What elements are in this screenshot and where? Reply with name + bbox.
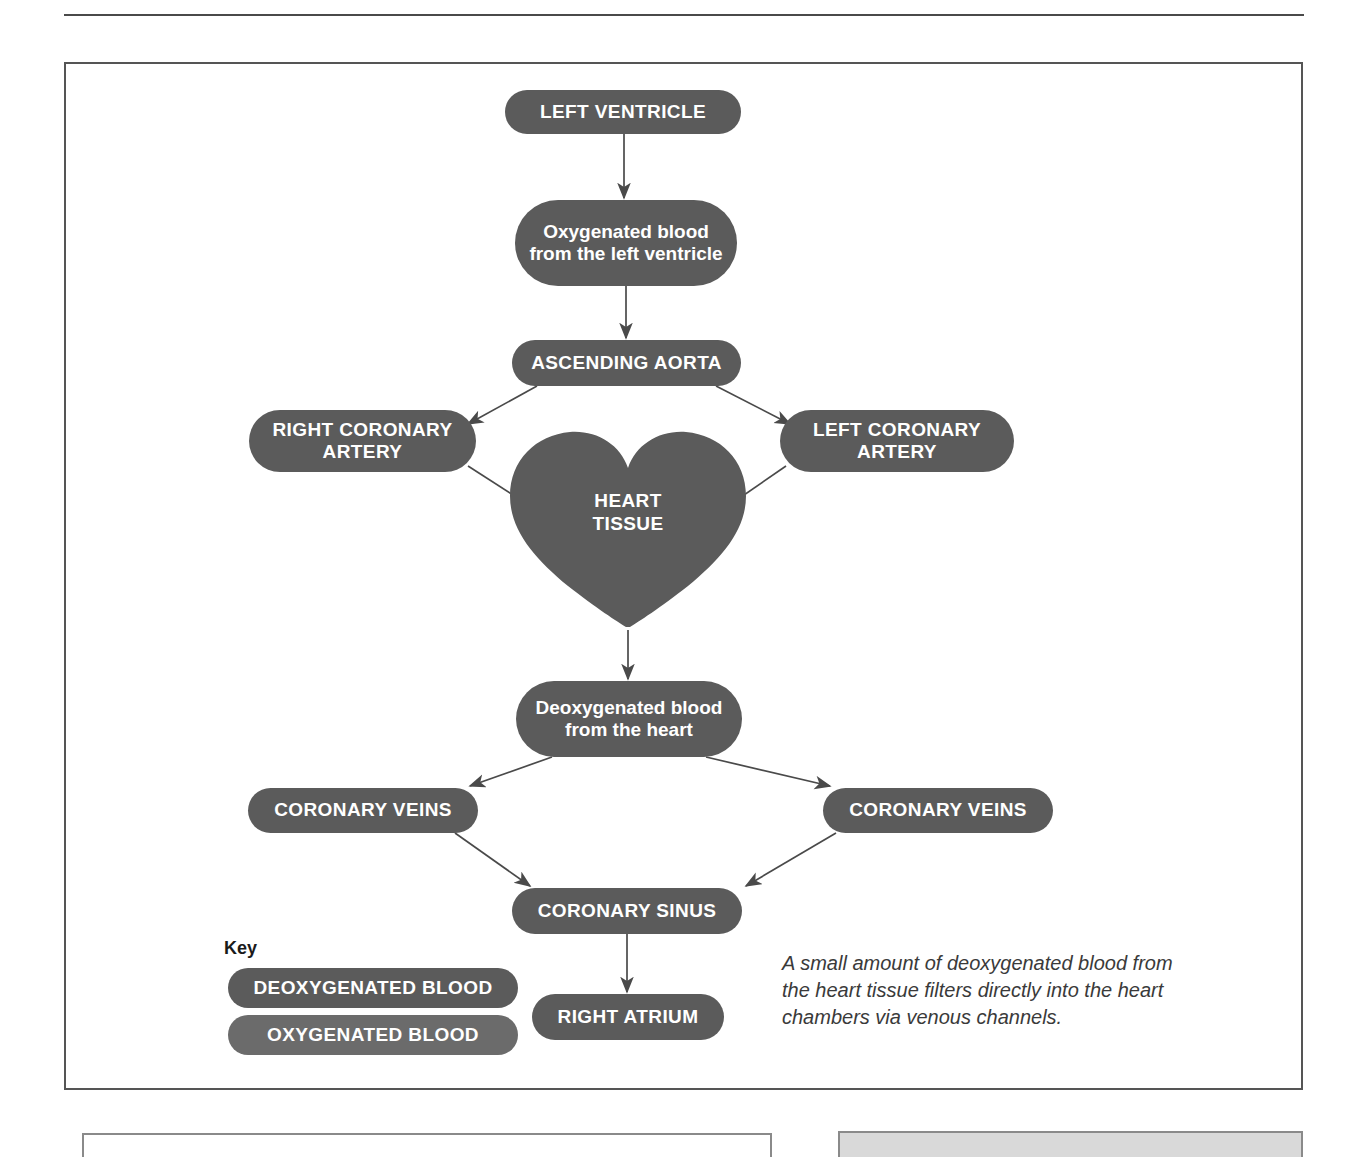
node-heart-tissue-line1: HEART	[594, 490, 661, 511]
page-top-rule	[64, 14, 1304, 16]
adjacent-box-right-partial	[838, 1131, 1303, 1157]
figure-caption: A small amount of deoxygenated blood fro…	[782, 950, 1182, 1031]
node-right-coronary-artery-line2: ARTERY	[323, 441, 403, 462]
key-title: Key	[224, 938, 257, 959]
key-item-oxygenated-blood[interactable]: OXYGENATED BLOOD	[228, 1015, 518, 1055]
node-right-coronary-artery-line1: RIGHT CORONARY	[272, 419, 452, 440]
adjacent-box-left-partial	[82, 1133, 772, 1157]
key-item-deoxygenated-blood[interactable]: DEOXYGENATED BLOOD	[228, 968, 518, 1008]
node-ascending-aorta[interactable]: ASCENDING AORTA	[512, 340, 741, 386]
node-heart-tissue-label: HEART TISSUE	[508, 490, 748, 536]
node-deoxygenated-blood[interactable]: Deoxygenated blood from the heart	[516, 681, 742, 757]
node-right-coronary-artery[interactable]: RIGHT CORONARY ARTERY	[249, 410, 476, 472]
node-left-coronary-artery-line2: ARTERY	[857, 441, 937, 462]
node-heart-tissue-line2: TISSUE	[592, 513, 663, 534]
node-right-atrium[interactable]: RIGHT ATRIUM	[532, 994, 724, 1040]
node-deoxygenated-blood-line1: Deoxygenated blood	[536, 697, 723, 718]
node-oxygenated-blood-line1: Oxygenated blood	[543, 221, 709, 242]
node-coronary-veins-right[interactable]: CORONARY VEINS	[823, 788, 1053, 833]
node-oxygenated-blood-line2: from the left ventricle	[529, 243, 722, 264]
node-left-coronary-artery[interactable]: LEFT CORONARY ARTERY	[780, 410, 1014, 472]
node-deoxygenated-blood-line2: from the heart	[565, 719, 693, 740]
node-left-coronary-artery-line1: LEFT CORONARY	[813, 419, 981, 440]
node-coronary-sinus[interactable]: CORONARY SINUS	[512, 888, 742, 934]
node-oxygenated-blood[interactable]: Oxygenated blood from the left ventricle	[515, 200, 737, 286]
node-heart-tissue[interactable]: HEART TISSUE	[508, 430, 748, 628]
node-coronary-veins-left[interactable]: CORONARY VEINS	[248, 788, 478, 833]
node-left-ventricle[interactable]: LEFT VENTRICLE	[505, 90, 741, 134]
